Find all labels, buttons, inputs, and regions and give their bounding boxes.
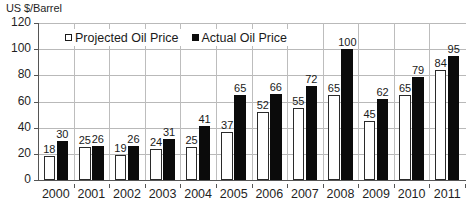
filled-square-icon bbox=[192, 34, 199, 41]
x-tick-mark bbox=[216, 184, 217, 188]
bar-group: 65100 bbox=[323, 23, 359, 180]
x-tick-label: 2008 bbox=[323, 187, 359, 201]
y-tick-label: 20 bbox=[0, 146, 31, 160]
bar-projected[interactable] bbox=[435, 70, 447, 180]
bar-actual[interactable] bbox=[412, 77, 424, 180]
bar-projected[interactable] bbox=[150, 149, 162, 180]
x-tick-label: 2001 bbox=[74, 187, 110, 201]
bar-value-label-actual: 100 bbox=[338, 37, 356, 48]
bar-groups: 1830252619262431254137655266557265100456… bbox=[38, 23, 465, 180]
bar-value-label-projected: 65 bbox=[325, 83, 343, 94]
category-separator bbox=[323, 23, 324, 180]
bar-value-label-projected: 84 bbox=[432, 58, 450, 69]
hollow-square-icon bbox=[65, 34, 72, 41]
bar-value-label-actual: 95 bbox=[445, 44, 463, 55]
bar-value-label-actual: 30 bbox=[54, 129, 72, 140]
bar-actual[interactable] bbox=[270, 94, 282, 180]
bar-projected[interactable] bbox=[364, 121, 376, 180]
x-tick-label: 2003 bbox=[145, 187, 181, 201]
y-tick-label: 100 bbox=[0, 41, 31, 55]
bar-group: 5572 bbox=[287, 23, 323, 180]
bar-value-label-projected: 37 bbox=[218, 120, 236, 131]
bar-actual[interactable] bbox=[163, 139, 175, 180]
bar-value-label-actual: 79 bbox=[409, 65, 427, 76]
legend-entry[interactable]: Projected Oil Price bbox=[65, 31, 179, 45]
bar-group: 5266 bbox=[252, 23, 288, 180]
bar-projected[interactable] bbox=[257, 112, 269, 180]
category-separator bbox=[252, 23, 253, 180]
bar-projected[interactable] bbox=[79, 147, 91, 180]
x-tick-label: 2011 bbox=[429, 187, 465, 201]
bar-value-label-actual: 62 bbox=[374, 87, 392, 98]
bar-projected[interactable] bbox=[186, 147, 198, 180]
bar-value-label-actual: 31 bbox=[160, 127, 178, 138]
legend-label: Projected Oil Price bbox=[75, 31, 179, 45]
bar-actual[interactable] bbox=[306, 86, 318, 180]
bar-value-label-actual: 65 bbox=[231, 83, 249, 94]
x-tick-mark bbox=[394, 184, 395, 188]
category-separator bbox=[287, 23, 288, 180]
category-separator bbox=[74, 23, 75, 180]
bar-value-label-actual: 26 bbox=[89, 134, 107, 145]
x-tick-label: 2002 bbox=[109, 187, 145, 201]
category-separator bbox=[394, 23, 395, 180]
y-tick-label: 80 bbox=[0, 67, 31, 81]
bar-group: 2526 bbox=[74, 23, 110, 180]
bar-actual[interactable] bbox=[199, 126, 211, 180]
category-separator bbox=[216, 23, 217, 180]
x-tick-mark bbox=[180, 184, 181, 188]
bar-projected[interactable] bbox=[328, 95, 340, 180]
bar-value-label-projected: 25 bbox=[183, 135, 201, 146]
bar-value-label-projected: 45 bbox=[361, 109, 379, 120]
x-tick-mark bbox=[145, 184, 146, 188]
x-tick-label: 2004 bbox=[180, 187, 216, 201]
x-tick-mark bbox=[465, 184, 466, 188]
y-axis-title: US $/Barrel bbox=[6, 2, 62, 14]
bar-value-label-projected: 52 bbox=[254, 100, 272, 111]
x-tick-label: 2010 bbox=[394, 187, 430, 201]
x-tick-label: 2005 bbox=[216, 187, 252, 201]
bar-chart: US $/Barrel 020406080100120 183025261926… bbox=[0, 0, 474, 223]
bar-group: 2431 bbox=[145, 23, 181, 180]
bar-value-label-actual: 26 bbox=[125, 134, 143, 145]
category-separator bbox=[145, 23, 146, 180]
bar-group: 8495 bbox=[429, 23, 465, 180]
bar-value-label-projected: 18 bbox=[41, 144, 59, 155]
x-axis-tick-labels: 2000200120022003200420052006200720082009… bbox=[38, 184, 465, 206]
y-tick-label: 0 bbox=[0, 172, 31, 186]
bar-actual[interactable] bbox=[377, 99, 389, 180]
y-axis-tick-labels: 020406080100120 bbox=[0, 23, 34, 180]
bar-projected[interactable] bbox=[115, 155, 127, 180]
bar-group: 6579 bbox=[394, 23, 430, 180]
x-tick-mark bbox=[109, 184, 110, 188]
bar-value-label-actual: 41 bbox=[196, 114, 214, 125]
bar-group: 1830 bbox=[38, 23, 74, 180]
bar-projected[interactable] bbox=[44, 156, 56, 180]
x-tick-label: 2006 bbox=[252, 187, 288, 201]
x-tick-mark bbox=[287, 184, 288, 188]
bar-actual[interactable] bbox=[92, 146, 104, 180]
bar-projected[interactable] bbox=[221, 132, 233, 180]
bar-actual[interactable] bbox=[448, 56, 460, 180]
bar-projected[interactable] bbox=[293, 108, 305, 180]
x-tick-mark bbox=[323, 184, 324, 188]
bar-group: 1926 bbox=[109, 23, 145, 180]
bar-value-label-actual: 72 bbox=[303, 74, 321, 85]
category-separator bbox=[429, 23, 430, 180]
y-tick-label: 40 bbox=[0, 120, 31, 134]
category-separator bbox=[180, 23, 181, 180]
bar-value-label-actual: 66 bbox=[267, 82, 285, 93]
bar-actual[interactable] bbox=[341, 49, 353, 180]
x-tick-label: 2000 bbox=[38, 187, 74, 201]
legend-entry[interactable]: Actual Oil Price bbox=[192, 31, 287, 45]
bar-actual[interactable] bbox=[128, 146, 140, 180]
bar-value-label-projected: 55 bbox=[290, 96, 308, 107]
x-tick-label: 2007 bbox=[287, 187, 323, 201]
bar-group: 2541 bbox=[180, 23, 216, 180]
bar-projected[interactable] bbox=[399, 95, 411, 180]
bar-actual[interactable] bbox=[234, 95, 246, 180]
bar-group: 3765 bbox=[216, 23, 252, 180]
x-tick-label: 2009 bbox=[358, 187, 394, 201]
chart-legend: Projected Oil PriceActual Oil Price bbox=[63, 29, 289, 46]
bar-actual[interactable] bbox=[57, 141, 69, 180]
